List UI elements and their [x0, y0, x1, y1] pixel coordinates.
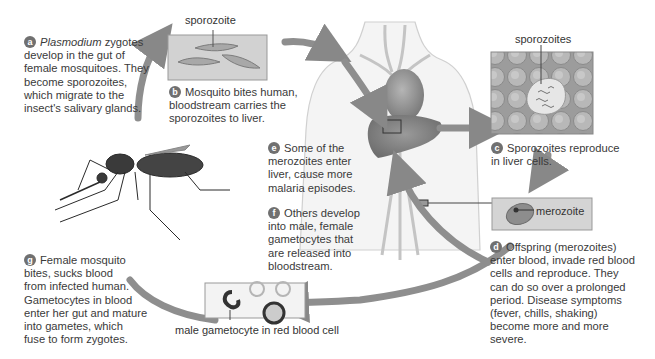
step-f-text: fOthers develop into male, female gameto… [268, 207, 360, 273]
male-gametocyte-label: male gametocyte in red blood cell [175, 324, 339, 336]
step-e-badge: e [268, 142, 280, 154]
step-d-badge: d [490, 241, 502, 253]
merozoite-label: merozoite [536, 205, 584, 217]
heart [384, 69, 424, 121]
mosquito [55, 145, 230, 240]
step-b-badge: b [169, 86, 181, 98]
sporozoites-label: sporozoites [515, 33, 571, 45]
step-f-badge: f [268, 207, 280, 219]
step-b-text: bMosquito bites human, bloodstream carri… [169, 86, 298, 126]
step-e-text: eSome of the merozoites enter liver, cau… [268, 142, 356, 195]
step-d-text: dOffspring (merozoites) enter blood, inv… [490, 241, 635, 347]
step-g-badge: g [24, 254, 36, 266]
step-a-badge: a [24, 36, 36, 48]
sporozoite-label: sporozoite [185, 14, 236, 26]
step-c-text: cSporozoites reproduce in liver cells. [491, 142, 620, 168]
step-g-text: gFemale mosquito bites, sucks blood from… [24, 254, 147, 346]
step-a-text: aPlasmodium zygotes develop in the gut o… [24, 36, 149, 115]
step-c-badge: c [491, 142, 503, 154]
